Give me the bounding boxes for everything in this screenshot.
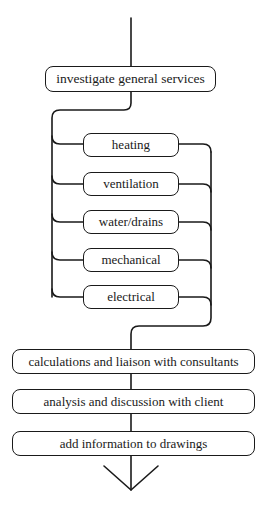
node-label: ventilation	[103, 176, 159, 192]
branch-out-ventilation	[179, 184, 211, 192]
node-ventilation: ventilation	[83, 172, 179, 196]
branch-out-electrical	[179, 297, 211, 305]
node-electrical: electrical	[83, 285, 179, 309]
node-label: add information to drawings	[60, 436, 208, 452]
node-analysis-discussion: analysis and discussion with client	[12, 389, 255, 414]
node-label: investigate general services	[56, 71, 204, 87]
node-mechanical: mechanical	[83, 248, 179, 272]
node-label: electrical	[107, 289, 155, 305]
node-water-drains: water/drains	[83, 210, 179, 234]
branch-out-mechanical	[179, 260, 211, 268]
node-investigate-general-services: investigate general services	[45, 66, 216, 92]
node-label: mechanical	[101, 252, 160, 268]
node-label: heating	[112, 137, 150, 153]
node-heating: heating	[83, 133, 179, 157]
branch-in-heating	[52, 136, 83, 144]
node-label: analysis and discussion with client	[44, 394, 224, 410]
branch-in-water	[52, 214, 83, 222]
branch-out-water	[179, 222, 211, 230]
branch-in-ventilation	[52, 176, 83, 184]
node-calculations-liaison: calculations and liaison with consultant…	[12, 349, 255, 374]
branch-out-heating	[179, 144, 211, 152]
node-add-information: add information to drawings	[12, 431, 255, 456]
branch-in-mechanical	[52, 252, 83, 260]
node-label: calculations and liaison with consultant…	[28, 354, 238, 370]
node-label: water/drains	[99, 214, 163, 230]
branch-in-electrical	[52, 289, 83, 297]
